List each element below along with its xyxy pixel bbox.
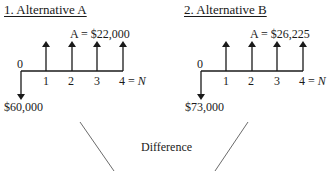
alternative-b-diagram (201, 44, 303, 97)
alternative-a-annuity-label: A = $22,000 (70, 28, 130, 40)
alternative-a-title: 1. Alternative A (4, 3, 87, 16)
period-label-1: 1 (223, 75, 229, 87)
period-label-0: 0 (197, 58, 203, 70)
period-label-0: 0 (17, 58, 23, 70)
alternative-a-initial-cost: $60,000 (4, 101, 43, 113)
difference-line-left (80, 122, 114, 171)
period-label-2: 2 (248, 75, 254, 87)
alternative-b-annuity-label: A = $26,225 (250, 28, 310, 40)
period-label-3: 3 (274, 75, 280, 87)
difference-label: Difference (141, 141, 192, 153)
alternative-b-title: 2. Alternative B (184, 3, 267, 16)
period-label-1: 1 (43, 75, 49, 87)
period-label-3: 3 (94, 75, 100, 87)
alternative-b-initial-cost: $73,000 (185, 101, 224, 113)
period-label-2: 2 (68, 75, 74, 87)
period-label-4: 4 = N (299, 75, 326, 87)
alternative-a-diagram (21, 44, 123, 97)
period-label-4: 4 = N (119, 75, 146, 87)
difference-line-right (215, 122, 248, 171)
